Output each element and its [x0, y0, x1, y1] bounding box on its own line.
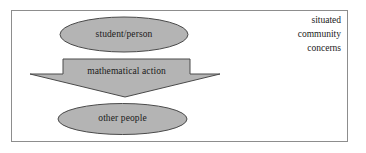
side-note-line-1: situated: [231, 13, 341, 27]
side-note-line-3: concerns: [231, 41, 341, 55]
diagram-canvas: student/person mathematical action other…: [0, 0, 366, 153]
top-ellipse-label: student/person: [60, 29, 188, 39]
arrow-banner-shape: [30, 59, 220, 97]
arrow-banner-label: mathematical action: [63, 66, 190, 76]
side-note-block: situated community concerns: [231, 13, 341, 55]
side-note-line-2: community: [231, 27, 341, 41]
bottom-ellipse-label: other people: [58, 113, 187, 123]
